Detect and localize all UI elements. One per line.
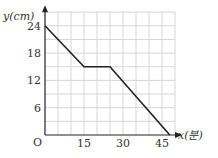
y-axis-arrow-icon bbox=[42, 5, 48, 12]
x-tick-label: 45 bbox=[155, 137, 169, 150]
origin-label: O bbox=[33, 136, 42, 149]
x-axis-label: x(분) bbox=[178, 129, 203, 142]
line-chart: 1530456121824 y(cm) x(분) O bbox=[0, 0, 218, 158]
x-tick-label: 15 bbox=[77, 137, 91, 150]
y-axis-label: y(cm) bbox=[2, 10, 34, 23]
y-tick-label: 6 bbox=[34, 102, 41, 115]
y-tick-label: 12 bbox=[27, 74, 41, 87]
y-tick-label: 18 bbox=[27, 47, 41, 60]
grid bbox=[45, 12, 175, 135]
axes bbox=[42, 5, 182, 138]
x-tick-label: 30 bbox=[116, 137, 130, 150]
